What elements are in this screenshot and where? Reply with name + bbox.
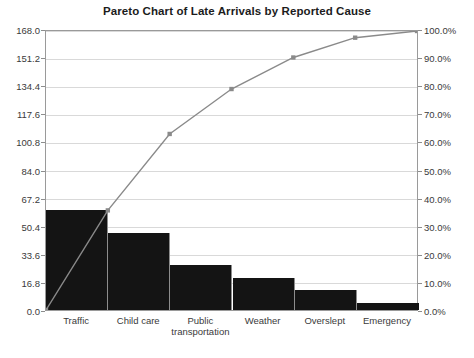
x-axis-category-label: Traffic bbox=[45, 315, 107, 326]
y2-axis-tick-label: 80.0% bbox=[424, 81, 474, 92]
y2-axis-tick-label: 90.0% bbox=[424, 53, 474, 64]
cumulative-point-marker bbox=[167, 132, 171, 136]
y2-axis-tick-mark bbox=[418, 142, 422, 143]
cumulative-point-marker bbox=[415, 31, 417, 33]
pareto-chart: Pareto Chart of Late Arrivals by Reporte… bbox=[0, 0, 474, 358]
cumulative-point-marker bbox=[291, 55, 295, 59]
cumulative-point-marker bbox=[46, 308, 48, 310]
cumulative-point-marker bbox=[229, 87, 233, 91]
y2-axis-tick-label: 70.0% bbox=[424, 109, 474, 120]
x-axis-category-label: Public transportation bbox=[169, 315, 231, 337]
y2-axis-tick-mark bbox=[418, 255, 422, 256]
y2-axis-tick-label: 60.0% bbox=[424, 137, 474, 148]
plot-area bbox=[45, 30, 418, 311]
y2-axis-tick-mark bbox=[418, 199, 422, 200]
x-axis-category-label: Overslept bbox=[294, 315, 356, 326]
y-axis-tick-label: 134.4 bbox=[0, 81, 40, 92]
y2-axis-tick-label: 0.0% bbox=[424, 306, 474, 317]
y-axis-tick-label: 117.6 bbox=[0, 109, 40, 120]
y2-axis-tick-label: 10.0% bbox=[424, 277, 474, 288]
y-axis-tick-label: 151.2 bbox=[0, 53, 40, 64]
y2-axis-tick-mark bbox=[418, 283, 422, 284]
cumulative-line bbox=[46, 31, 417, 310]
y-axis-tick-label: 84.0 bbox=[0, 165, 40, 176]
cumulative-line-layer bbox=[46, 31, 417, 310]
y-axis-tick-label: 168.0 bbox=[0, 25, 40, 36]
y2-axis-tick-label: 100.0% bbox=[424, 25, 474, 36]
y2-axis-tick-label: 50.0% bbox=[424, 165, 474, 176]
x-axis-category-label: Weather bbox=[232, 315, 294, 326]
cumulative-point-marker bbox=[353, 36, 357, 40]
y-axis-tick-label: 50.4 bbox=[0, 221, 40, 232]
y2-axis-tick-label: 40.0% bbox=[424, 193, 474, 204]
cumulative-line-svg bbox=[46, 31, 417, 310]
y-axis-tick-mark bbox=[41, 311, 45, 312]
y2-axis-tick-mark bbox=[418, 86, 422, 87]
y2-axis-tick-mark bbox=[418, 311, 422, 312]
y-axis-tick-label: 16.8 bbox=[0, 277, 40, 288]
y-axis-tick-label: 33.6 bbox=[0, 249, 40, 260]
y2-axis-tick-label: 30.0% bbox=[424, 221, 474, 232]
y-axis-tick-label: 67.2 bbox=[0, 193, 40, 204]
y2-axis-tick-mark bbox=[418, 227, 422, 228]
y2-axis-tick-label: 20.0% bbox=[424, 249, 474, 260]
cumulative-point-marker bbox=[106, 208, 110, 212]
y-axis-tick-label: 0.0 bbox=[0, 306, 40, 317]
y2-axis-tick-mark bbox=[418, 171, 422, 172]
cumulative-markers bbox=[46, 31, 417, 310]
x-axis-category-label: Emergency bbox=[356, 315, 418, 326]
y-axis-tick-label: 100.8 bbox=[0, 137, 40, 148]
y2-axis-tick-mark bbox=[418, 114, 422, 115]
x-axis-category-label: Child care bbox=[107, 315, 169, 326]
y2-axis-tick-mark bbox=[418, 30, 422, 31]
y2-axis-tick-mark bbox=[418, 58, 422, 59]
